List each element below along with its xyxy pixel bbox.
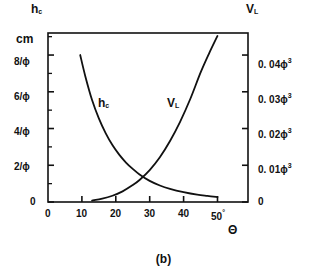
x-tick-label: 0	[45, 209, 51, 219]
x-tick-label: 50°	[211, 209, 225, 222]
left-tick-label: 0	[30, 197, 36, 207]
figure-root: hc cm VL 8/ϕ 6/ϕ 4/ϕ 2/ϕ 0 0. 04ϕ3 0. 03…	[0, 0, 327, 280]
chart-canvas	[0, 0, 327, 280]
right-tick-label: 0. 03ϕ3	[258, 92, 292, 105]
curve-label-vl: VL	[167, 97, 179, 109]
x-tick-label: 20	[110, 209, 121, 219]
plot-frame	[48, 33, 248, 202]
left-tick-label: 6/ϕ	[14, 92, 30, 102]
curve-hc	[80, 55, 217, 197]
x-tick-label: 10	[76, 209, 87, 219]
right-tick-label: 0. 01ϕ3	[258, 162, 292, 175]
right-tick-label: 0. 04ϕ3	[258, 57, 292, 70]
curve-vl	[92, 36, 217, 201]
left-tick-label: 8/ϕ	[14, 57, 30, 67]
x-axis-title: Θ	[228, 224, 237, 236]
left-axis-title: hc	[31, 3, 42, 15]
left-tick-label: 2/ϕ	[14, 162, 30, 172]
right-axis-title: VL	[246, 3, 258, 15]
right-tick-label: 0	[258, 197, 264, 207]
x-tick-label: 40	[178, 209, 189, 219]
curve-label-hc: hc	[98, 97, 109, 109]
right-tick-label: 0. 02ϕ3	[258, 127, 292, 140]
x-tick-label: 30	[144, 209, 155, 219]
left-axis-unit: cm	[16, 33, 33, 45]
figure-caption: (b)	[0, 252, 327, 266]
left-tick-label: 4/ϕ	[14, 127, 30, 137]
